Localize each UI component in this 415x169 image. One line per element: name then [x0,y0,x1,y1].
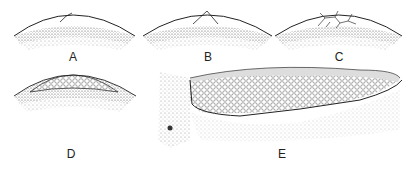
panel-label-a: A [63,50,83,64]
panel-c-drawing [275,11,402,50]
panel-label-d: D [61,147,81,161]
panel-label-e: E [272,147,292,161]
panel-e-drawing [158,67,402,148]
panel-label-c: C [329,50,349,64]
figure-canvas [0,0,415,169]
panel-b-drawing [143,11,272,50]
panel-d-drawing [14,75,136,112]
panel-label-b: B [198,50,218,64]
panel-a-drawing [14,13,135,50]
